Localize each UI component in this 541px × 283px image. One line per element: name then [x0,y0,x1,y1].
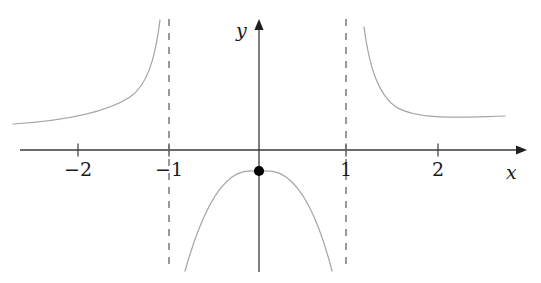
marked-point-local-max [254,166,264,176]
x-axis-label: x [506,163,517,182]
tick-label-2: 2 [428,160,448,179]
y-axis-arrowhead [254,19,263,30]
vertical-asymptotes [169,19,346,271]
x-axis-arrowhead [516,145,527,154]
plot-canvas [0,0,541,283]
curve-branch-right [364,27,505,117]
tick-label-minus-1: −1 [154,160,184,179]
curve-branch-left [13,20,160,124]
y-axis-label: y [236,21,247,40]
x-axis [20,145,527,154]
tick-label-1: 1 [336,160,356,179]
function-plot-figure: −2 −1 1 2 x y [0,0,541,283]
tick-label-minus-2: −2 [63,160,93,179]
y-axis [254,19,263,272]
